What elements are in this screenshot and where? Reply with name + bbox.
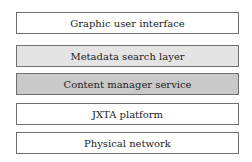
layer-metadata-search: Metadata search layer xyxy=(16,45,239,67)
layer-graphic-user-interface: Graphic user interface xyxy=(16,12,239,34)
layer-label: Content manager service xyxy=(63,79,191,90)
layer-physical-network: Physical network xyxy=(16,132,239,154)
layer-label: Graphic user interface xyxy=(70,18,185,29)
layer-jxta-platform: JXTA platform xyxy=(16,103,239,125)
layer-label: JXTA platform xyxy=(92,109,163,120)
layer-label: Metadata search layer xyxy=(70,51,184,62)
layer-label: Physical network xyxy=(84,138,171,149)
layer-content-manager-service: Content manager service xyxy=(16,73,239,95)
